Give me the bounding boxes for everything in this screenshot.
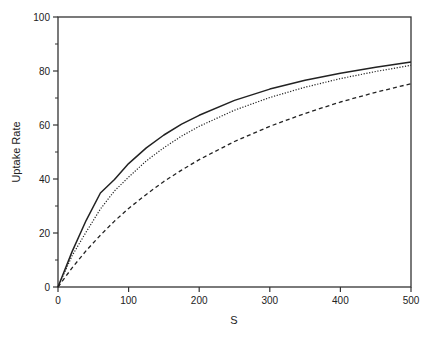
x-tick-label: 400: [332, 295, 349, 306]
x-tick-label: 300: [261, 295, 278, 306]
series-lines: [58, 62, 411, 287]
series-dashed-line: [58, 84, 411, 287]
x-tick-label: 500: [403, 295, 420, 306]
series-solid-line: [58, 62, 411, 287]
y-axis-title: Uptake Rate: [10, 121, 22, 182]
uptake-rate-chart: 020406080100 0100200300400500 S Uptake R…: [0, 0, 434, 337]
y-tick-label: 0: [44, 282, 50, 293]
x-axis-title: S: [230, 314, 237, 326]
x-axis-ticks: 0100200300400500: [55, 287, 420, 306]
y-tick-label: 100: [33, 12, 50, 23]
y-tick-label: 80: [39, 66, 51, 77]
y-tick-label: 40: [39, 174, 51, 185]
y-axis-ticks: 020406080100: [33, 12, 58, 293]
x-tick-label: 100: [120, 295, 137, 306]
x-tick-label: 0: [55, 295, 61, 306]
series-dotted-line: [58, 65, 411, 287]
y-tick-label: 60: [39, 120, 51, 131]
plot-frame: [58, 17, 411, 287]
x-tick-label: 200: [191, 295, 208, 306]
y-tick-label: 20: [39, 228, 51, 239]
